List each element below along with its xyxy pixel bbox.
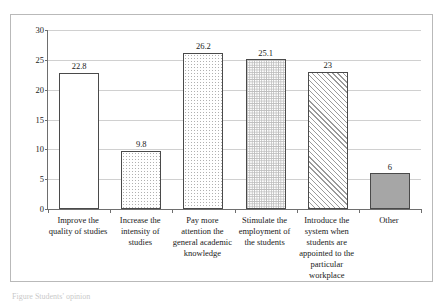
x-axis-category-label: Improve the quality of studies (47, 215, 109, 237)
bar-slot: 6 (359, 30, 421, 209)
figure-caption-text: Figure Students' opinion (12, 291, 432, 302)
bar-value-label: 9.8 (136, 140, 147, 149)
bar-value-label: 6 (388, 163, 392, 172)
y-axis-tick-label: 30 (36, 26, 45, 35)
chart-figure-frame: 051015202530 22.89.826.225.1236 Improve … (10, 14, 433, 282)
x-axis-tick-mark (359, 209, 360, 213)
x-axis-tick-mark (172, 209, 173, 213)
x-axis-tick-mark (421, 209, 422, 213)
bar-value-label: 23 (323, 61, 332, 70)
x-axis-labels: Improve the quality of studiesIncrease t… (47, 215, 421, 285)
y-axis-tick-label: 10 (36, 145, 45, 154)
x-axis-tick-mark (297, 209, 298, 213)
bar[interactable]: 9.8 (121, 151, 161, 209)
bar[interactable]: 6 (370, 173, 410, 209)
bar-slot: 22.8 (48, 30, 110, 209)
x-axis-tick-mark (110, 209, 111, 213)
bar[interactable]: 25.1 (246, 59, 286, 209)
bar[interactable]: 22.8 (59, 73, 99, 209)
x-axis-category-label: Increase the intensity of studies (109, 215, 171, 248)
x-axis-category-label: Stimulate the employment of the students (234, 215, 296, 248)
y-axis-tick-label: 20 (36, 85, 45, 94)
x-axis-category-label: Other (358, 215, 420, 226)
y-axis-tick-label: 5 (40, 175, 44, 184)
x-axis-category-label: Pay more attention the general academic … (171, 215, 233, 259)
x-axis-tick-mark (235, 209, 236, 213)
bar[interactable]: 23 (308, 72, 348, 209)
figure-caption: Figure Students' opinion (12, 291, 432, 302)
x-axis-tick-mark (48, 209, 49, 213)
bar-value-label: 25.1 (258, 49, 273, 58)
bars-layer: 22.89.826.225.1236 (48, 30, 421, 209)
y-axis-tick-label: 15 (36, 115, 45, 124)
bar[interactable]: 26.2 (183, 53, 223, 209)
bar-slot: 9.8 (110, 30, 172, 209)
bar-value-label: 26.2 (196, 42, 211, 51)
y-axis-tick-label: 0 (40, 205, 44, 214)
bar-slot: 23 (297, 30, 359, 209)
plot-area: 051015202530 22.89.826.225.1236 (47, 30, 421, 210)
x-axis-category-label: Introduce the system when students are a… (296, 215, 358, 281)
bar-slot: 26.2 (172, 30, 234, 209)
bar-slot: 25.1 (235, 30, 297, 209)
bar-value-label: 22.8 (72, 62, 87, 71)
y-axis-tick-label: 25 (36, 56, 45, 65)
